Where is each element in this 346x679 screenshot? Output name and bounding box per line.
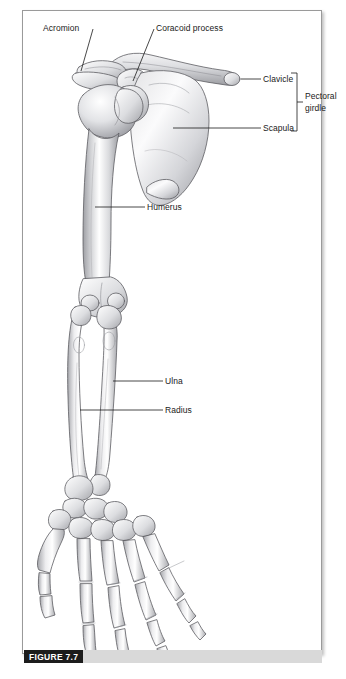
- label-humerus: Humerus: [147, 202, 182, 212]
- figure-plate: Acromion Coracoid process Clavicle Scapu…: [0, 0, 346, 679]
- figure-caption-badge: FIGURE 7.7: [24, 650, 83, 663]
- label-coracoid-process: Coracoid process: [156, 23, 223, 33]
- label-clavicle: Clavicle: [263, 74, 293, 84]
- bones-phalanges: [38, 568, 206, 655]
- bone-radius: [68, 313, 89, 487]
- label-ulna: Ulna: [165, 376, 183, 386]
- label-pectoral-girdle-line1: Pectoral: [305, 91, 337, 101]
- figure-frame: Acromion Coracoid process Clavicle Scapu…: [22, 10, 322, 654]
- skeleton-illustration: [23, 11, 323, 655]
- label-pectoral-girdle-line2: girdle: [305, 103, 326, 113]
- bone-humerus-shaft: [83, 129, 119, 283]
- label-scapula: Scapula: [263, 123, 294, 133]
- label-radius: Radius: [165, 405, 192, 415]
- label-acromion: Acromion: [43, 23, 79, 33]
